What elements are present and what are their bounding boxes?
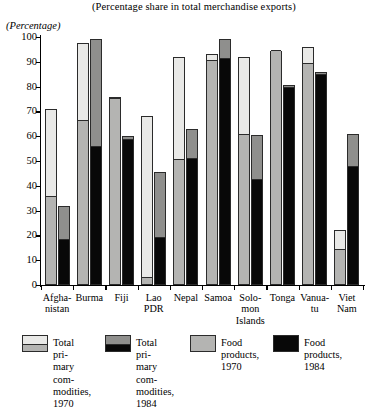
bar-1984[interactable] [122, 136, 134, 285]
y-axis-tick-label: 40 [27, 181, 38, 192]
legend-label-total-primary-1970: Total pri- mary com- modities, 1970 [53, 337, 91, 410]
bar-segment-food-products-1984 [252, 179, 262, 284]
legend-swatch-bottom [23, 344, 47, 352]
chart-title: (Percentage share in total merchandise e… [92, 1, 296, 12]
y-axis-tick-label: 20 [27, 230, 38, 241]
bar-1984[interactable] [251, 135, 263, 285]
bar-1970[interactable] [302, 47, 314, 285]
bar-group [331, 37, 363, 285]
bar-segment-food-products-1970 [142, 277, 152, 284]
bar-1984[interactable] [347, 134, 359, 285]
x-axis-tick-mark [331, 285, 332, 290]
bar-1984[interactable] [186, 129, 198, 285]
legend-label-food-products-1984: Food products, 1984 [304, 337, 342, 374]
bar-segment-food-products-1984 [59, 239, 69, 284]
bar-segment-food-products-1984 [284, 87, 294, 284]
bar-1984[interactable] [315, 72, 327, 285]
bar-segment-food-products-1970 [239, 134, 249, 284]
bar-segment-food-products-1984 [187, 158, 197, 284]
x-axis-tick-mark [363, 285, 364, 290]
bar-segment-food-products-1970 [303, 63, 313, 284]
bar-segment-food-products-1970 [271, 50, 281, 284]
bar-segment-food-products-1970 [335, 249, 345, 284]
bar-1984[interactable] [154, 172, 166, 285]
legend-swatch-food-products-1970 [190, 335, 216, 352]
bar-segment-food-products-1970 [78, 120, 88, 284]
x-axis-tick-mark [105, 285, 106, 290]
bar-group [170, 37, 202, 285]
plot-area: 0102030405060708090100 [41, 37, 363, 285]
bar-group [41, 37, 73, 285]
bar-1970[interactable] [109, 97, 121, 285]
x-axis-tick-mark [41, 285, 42, 290]
y-axis-tick-label: 50 [27, 156, 38, 167]
bar-1984[interactable] [90, 39, 102, 285]
x-axis-tick-mark [138, 285, 139, 290]
bar-1970[interactable] [238, 57, 250, 285]
x-axis-tick-mark [73, 285, 74, 290]
bar-group [266, 37, 298, 285]
legend-swatch-total-primary-1970 [22, 335, 48, 352]
x-axis-tick-mark [234, 285, 235, 290]
x-axis-tick-mark [299, 285, 300, 290]
bar-1970[interactable] [77, 43, 89, 285]
bar-segment-total-primary-1970 [142, 117, 152, 284]
y-axis-tick-label: 100 [21, 32, 37, 43]
y-axis-unit-label: (Percentage) [6, 20, 60, 31]
bar-1984[interactable] [219, 39, 231, 285]
bar-group [105, 37, 137, 285]
bar-segment-food-products-1984 [316, 74, 326, 284]
bar-group [234, 37, 266, 285]
y-axis-tick-label: 60 [27, 131, 38, 142]
bar-1984[interactable] [58, 206, 70, 285]
bar-group [299, 37, 331, 285]
bar-segment-food-products-1984 [155, 237, 165, 284]
x-axis-category-label: Viet Nam [325, 292, 369, 315]
legend-swatch-top [106, 336, 130, 344]
bar-group [73, 37, 105, 285]
bar-group [138, 37, 170, 285]
x-axis-tick-mark [266, 285, 267, 290]
bar-1970[interactable] [270, 51, 282, 285]
legend-label-food-products-1970: Food products, 1970 [221, 337, 259, 374]
bar-segment-food-products-1984 [348, 166, 358, 284]
y-axis-tick-label: 30 [27, 205, 38, 216]
legend-swatch-total-primary-1984 [105, 335, 131, 352]
x-axis-tick-mark [170, 285, 171, 290]
bar-group [202, 37, 234, 285]
bar-1970[interactable] [141, 116, 153, 285]
bar-1970[interactable] [173, 57, 185, 285]
bar-1970[interactable] [45, 109, 57, 285]
bar-segment-food-products-1970 [46, 196, 56, 284]
y-axis-tick-label: 70 [27, 106, 38, 117]
y-axis-tick-label: 80 [27, 81, 38, 92]
legend-swatch-top [23, 336, 47, 344]
bar-segment-food-products-1970 [110, 98, 120, 284]
bar-segment-food-products-1984 [91, 146, 101, 284]
x-axis-tick-mark [202, 285, 203, 290]
y-axis-tick-label: 90 [27, 57, 38, 68]
bar-1970[interactable] [334, 230, 346, 285]
bar-segment-food-products-1984 [220, 58, 230, 284]
bar-segment-food-products-1984 [123, 139, 133, 284]
chart-legend: Total pri- mary com- modities, 1970Total… [0, 333, 374, 397]
legend-swatch-bottom [106, 344, 130, 352]
y-axis-tick-label: 10 [27, 255, 38, 266]
y-axis-tick-label: 0 [32, 280, 37, 291]
legend-label-total-primary-1984: Total pri- mary com- modities, 1984 [136, 337, 174, 410]
bar-1970[interactable] [206, 54, 218, 285]
bar-segment-food-products-1970 [207, 60, 217, 284]
legend-swatch-food-products-1984 [273, 335, 299, 352]
bar-segment-food-products-1970 [174, 159, 184, 284]
bar-1984[interactable] [283, 85, 295, 285]
